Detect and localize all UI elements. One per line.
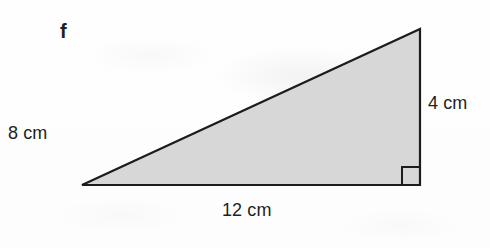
part-label: f [60,21,67,41]
triangle-shape [82,29,420,185]
base-measurement-label: 12 cm [222,201,272,219]
figure-canvas: f 8 cm 4 cm 12 cm [0,0,490,248]
right-side-measurement-label: 4 cm [428,94,467,112]
left-side-measurement-label: 8 cm [8,124,47,142]
